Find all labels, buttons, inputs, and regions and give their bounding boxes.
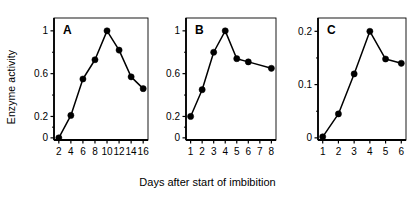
x-tick-label-c-3: 4 xyxy=(367,146,373,157)
data-point-a-2 xyxy=(80,76,86,82)
x-tick-label-a-4: 10 xyxy=(101,146,113,157)
y-tick-label-a-2: 0.6 xyxy=(34,68,48,79)
x-axis-label: Days after start of imbibition xyxy=(0,176,415,188)
y-tick-label-b-2: 0.6 xyxy=(166,68,180,79)
data-point-a-7 xyxy=(140,86,146,92)
y-axis-label: Enzyme activity xyxy=(5,49,17,123)
data-point-a-6 xyxy=(128,74,134,80)
x-tick-label-b-4: 5 xyxy=(234,146,240,157)
x-tick-label-b-0: 1 xyxy=(188,146,194,157)
data-point-a-3 xyxy=(92,57,98,63)
x-tick-label-b-3: 4 xyxy=(222,146,228,157)
x-tick-label-c-0: 1 xyxy=(320,146,326,157)
data-point-c-0 xyxy=(320,134,326,140)
x-tick-label-b-7: 8 xyxy=(269,146,275,157)
y-tick-label-b-0: 0 xyxy=(174,132,180,143)
y-tick-label-a-3: 1 xyxy=(42,25,48,36)
panel-label-c: C xyxy=(327,23,336,37)
x-tick-label-b-6: 7 xyxy=(257,146,263,157)
data-line-a xyxy=(59,31,143,138)
y-tick-label-b-3: 1 xyxy=(174,25,180,36)
data-point-c-2 xyxy=(351,71,357,77)
y-tick-label-c-2: 0.2 xyxy=(298,26,312,37)
data-point-b-1 xyxy=(199,87,205,93)
x-tick-label-a-5: 12 xyxy=(114,146,126,157)
y-axis-label-container: Enzyme activity xyxy=(2,14,20,159)
data-point-b-0 xyxy=(188,113,194,119)
data-point-c-3 xyxy=(367,28,373,34)
data-point-b-3 xyxy=(222,28,228,34)
data-point-b-6 xyxy=(268,65,274,71)
panel-label-a: A xyxy=(63,23,72,37)
chart-panel-a: 00.20.61246810121416A xyxy=(20,10,154,170)
data-line-b xyxy=(191,31,272,117)
panel-label-b: B xyxy=(195,23,204,37)
x-tick-label-c-1: 2 xyxy=(336,146,342,157)
x-tick-label-b-2: 3 xyxy=(211,146,217,157)
panel-c-plot: 00.10.2123456C xyxy=(282,10,412,170)
data-point-c-5 xyxy=(398,60,404,66)
y-tick-label-c-1: 0.1 xyxy=(298,79,312,90)
x-tick-label-a-1: 4 xyxy=(68,146,74,157)
x-tick-label-b-1: 2 xyxy=(199,146,205,157)
panels-container: 00.20.61246810121416A 00.20.6112345678B … xyxy=(20,10,412,170)
x-tick-label-a-3: 8 xyxy=(92,146,98,157)
x-tick-label-c-4: 5 xyxy=(383,146,389,157)
data-point-c-4 xyxy=(382,56,388,62)
data-point-b-2 xyxy=(211,49,217,55)
data-point-a-1 xyxy=(68,112,74,118)
y-tick-label-b-1: 0.2 xyxy=(166,111,180,122)
data-point-b-5 xyxy=(245,59,251,65)
panel-a-plot: 00.20.61246810121416A xyxy=(20,10,154,170)
x-tick-label-a-2: 6 xyxy=(80,146,86,157)
panel-b-plot: 00.20.6112345678B xyxy=(154,10,282,170)
x-tick-label-b-5: 6 xyxy=(246,146,252,157)
data-point-a-4 xyxy=(104,28,110,34)
x-tick-label-a-6: 14 xyxy=(126,146,138,157)
data-line-c xyxy=(323,31,402,136)
enzyme-activity-figure: Enzyme activity 00.20.61246810121416A 00… xyxy=(0,0,415,199)
x-tick-label-a-7: 16 xyxy=(138,146,150,157)
y-tick-label-a-1: 0.2 xyxy=(34,111,48,122)
data-point-a-0 xyxy=(56,135,62,141)
chart-panel-c: 00.10.2123456C xyxy=(282,10,412,170)
x-tick-label-c-5: 6 xyxy=(399,146,405,157)
x-tick-label-a-0: 2 xyxy=(56,146,62,157)
data-point-a-5 xyxy=(116,47,122,53)
y-tick-label-a-0: 0 xyxy=(42,132,48,143)
x-tick-label-c-2: 3 xyxy=(351,146,357,157)
data-point-c-1 xyxy=(335,111,341,117)
y-tick-label-c-0: 0 xyxy=(306,132,312,143)
chart-panel-b: 00.20.6112345678B xyxy=(154,10,282,170)
data-point-b-4 xyxy=(234,56,240,62)
